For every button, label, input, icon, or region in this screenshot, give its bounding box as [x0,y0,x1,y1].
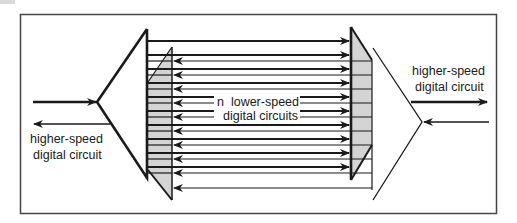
right-label-line1: higher-speed [412,64,485,78]
left-label-line1: higher-speed [30,132,103,146]
left-label-line2: digital circuit [33,148,102,162]
center-label-line1: n lower-speed [217,95,299,109]
left-multiplexer-triangle [97,29,147,178]
center-label-line2: digital circuits [223,109,298,123]
right-label-line2: digital circuit [415,80,484,94]
multiplexing-diagram: n lower-speed digital circuits higher-sp… [0,0,517,223]
